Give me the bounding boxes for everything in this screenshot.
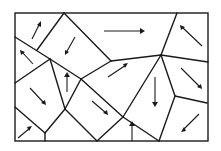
boundary-edge [161,13,177,55]
boundary-edge [81,61,111,79]
arrow-icon [30,88,46,105]
boundary-edge [15,59,50,83]
arrow-icon [180,25,202,46]
arrow-icon [20,50,33,64]
arrow-icon [181,68,202,89]
arrow-icon [152,77,158,107]
arrow-icon [18,126,32,138]
arrow-icon [92,101,108,115]
arrow-icon [64,72,70,92]
boundary-edge [65,109,97,141]
outer-frame [15,13,208,141]
cell-partition-diagram [0,0,221,151]
arrow-icon [65,37,75,55]
boundary-edge [45,109,65,133]
arrow-icon [181,114,199,132]
boundary-edge [161,55,208,62]
arrow-icon [32,21,41,39]
boundary-edge [64,13,111,61]
boundary-edge [97,117,123,141]
boundary-edge [159,96,175,141]
boundary-edge [37,13,64,50]
boundary-edge [81,79,123,117]
arrow-icon [104,28,145,34]
cell-boundaries [15,13,208,141]
boundary-edge [175,96,207,103]
boundary-edge [161,55,175,96]
arrow-icon [108,63,128,77]
boundary-edge [123,117,159,141]
boundary-edge [111,55,161,61]
